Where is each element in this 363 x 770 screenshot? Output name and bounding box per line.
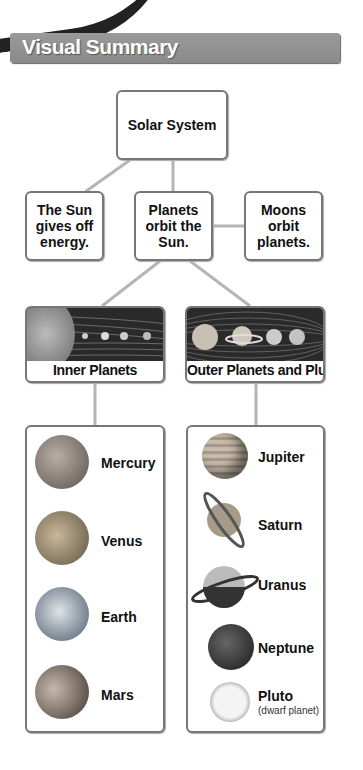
planet-name: Earth [101, 609, 137, 625]
outer-planets-list: Jupiter Saturn Uranus Neptune Pluto (dwa… [186, 425, 325, 733]
planet-item-saturn: Saturn [188, 487, 323, 547]
planet-name: Venus [101, 533, 142, 549]
neptune-icon [208, 624, 254, 670]
planet-item-uranus: Uranus [188, 557, 323, 617]
inner-planets-label: Inner Planets [27, 359, 163, 381]
inner-planets-image [27, 308, 163, 361]
outer-planets-label: Outer Planets and Pluto [187, 359, 323, 381]
planet-item-pluto: Pluto (dwarf planet) [188, 680, 323, 740]
sun-energy-box: The Sun gives off energy. [25, 191, 104, 261]
planet-item-earth: Earth [27, 585, 163, 645]
moons-orbit-box: Moons orbit planets. [244, 191, 323, 261]
saturn-icon [194, 487, 254, 553]
planet-item-neptune: Neptune [188, 624, 323, 684]
planet-name: Mercury [101, 455, 155, 471]
planet-name: Pluto [258, 688, 293, 704]
inner-planets-list: Mercury Venus Earth Mars [25, 425, 165, 733]
earth-icon [35, 587, 89, 641]
planet-name: Uranus [258, 577, 306, 593]
planet-item-mercury: Mercury [27, 433, 163, 493]
sun-energy-label: The Sun gives off energy. [36, 202, 94, 250]
planet-item-venus: Venus [27, 509, 163, 569]
planet-name: Neptune [258, 640, 314, 656]
planet-item-mars: Mars [27, 663, 163, 723]
planet-name: Saturn [258, 517, 302, 533]
venus-icon [35, 511, 89, 565]
outer-planets-image [187, 308, 323, 361]
uranus-icon [190, 557, 260, 617]
solar-system-box: Solar System [116, 90, 228, 160]
planets-orbit-label: Planets orbit the Sun. [146, 202, 202, 250]
pluto-icon [210, 682, 250, 722]
mars-icon [35, 665, 89, 719]
inner-planets-box: Inner Planets [25, 306, 165, 383]
planet-item-jupiter: Jupiter [188, 431, 323, 491]
planet-name: Mars [101, 687, 134, 703]
solar-system-label: Solar System [128, 117, 217, 133]
moons-orbit-label: Moons orbit planets. [257, 202, 310, 250]
outer-planets-box: Outer Planets and Pluto [185, 306, 325, 383]
mercury-icon [35, 435, 89, 489]
planets-orbit-box: Planets orbit the Sun. [134, 191, 213, 261]
planet-name: Jupiter [258, 449, 305, 465]
jupiter-icon [202, 433, 248, 479]
planet-subtitle: (dwarf planet) [258, 705, 319, 716]
